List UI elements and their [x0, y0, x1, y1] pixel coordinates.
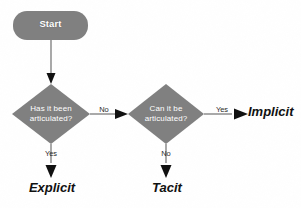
decision-2-label: Can it be articulated?	[127, 104, 205, 123]
decision-1-label: Has it been articulated?	[11, 104, 91, 123]
edge-label-decision-1-no: No	[93, 106, 115, 114]
edge-label-decision-1-yes: Yes	[39, 150, 63, 158]
start-node-label: Start	[13, 19, 88, 29]
terminal-explicit: Explicit	[11, 181, 93, 195]
edge-label-decision-2-yes: Yes	[210, 106, 234, 114]
terminal-implicit: Implicit	[248, 105, 301, 119]
flowchart-canvas: Start Has it been articulated? Can it be…	[0, 0, 301, 208]
terminal-tacit: Tacit	[128, 181, 206, 195]
edge-label-decision-2-no: No	[155, 150, 177, 158]
